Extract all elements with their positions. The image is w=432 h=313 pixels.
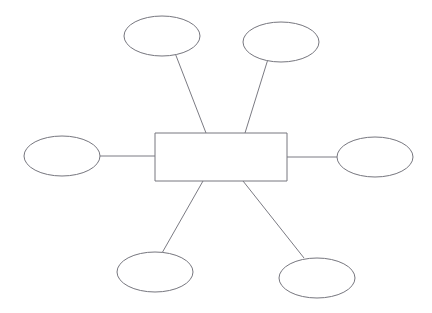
branch-top-left[interactable] bbox=[124, 16, 200, 56]
branch-top-right-ellipse[interactable] bbox=[243, 22, 319, 62]
branch-bottom-right-ellipse[interactable] bbox=[279, 258, 355, 298]
center-topic-box[interactable] bbox=[155, 133, 287, 181]
branch-bottom-right[interactable] bbox=[279, 258, 355, 298]
connector-bottom-left bbox=[162, 181, 203, 253]
branch-top-right[interactable] bbox=[243, 22, 319, 62]
connector-top-right bbox=[245, 59, 268, 133]
center-node-group[interactable] bbox=[155, 133, 287, 181]
branch-top-left-ellipse[interactable] bbox=[124, 16, 200, 56]
branch-left[interactable] bbox=[24, 136, 100, 176]
connector-top-left bbox=[175, 53, 206, 133]
branch-left-ellipse[interactable] bbox=[24, 136, 100, 176]
concept-map-diagram bbox=[0, 0, 432, 313]
branch-bottom-left[interactable] bbox=[117, 252, 193, 292]
branch-right-ellipse[interactable] bbox=[337, 137, 413, 177]
connector-bottom-right bbox=[243, 181, 304, 258]
branch-right[interactable] bbox=[337, 137, 413, 177]
branch-bottom-left-ellipse[interactable] bbox=[117, 252, 193, 292]
diagram-svg bbox=[0, 0, 432, 313]
